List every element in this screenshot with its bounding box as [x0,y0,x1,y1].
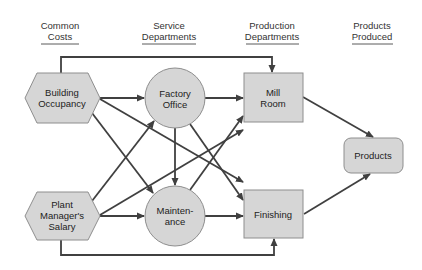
node-label: Occupancy [38,98,86,109]
node-label: Mainten- [157,205,194,216]
column-header-products-produced: Products Produced [352,20,393,44]
column-header-production-departments: Production Departments [245,20,300,44]
header-line: Products [353,20,391,31]
header-line: Costs [48,31,73,42]
node-label: ance [165,216,186,227]
edges [61,57,373,255]
node-factory-office: Factory Office [145,68,205,128]
node-mill-room: Mill Room [244,73,303,122]
header-line: Production [249,20,294,31]
node-label: Office [163,99,188,110]
node-label: Finishing [254,209,292,220]
node-label: Products [354,150,392,161]
edge-millroom-to-products [303,97,373,137]
column-header-common-costs: Common Costs [41,20,80,44]
node-maintenance: Mainten- ance [145,186,205,246]
node-label: Room [260,98,285,109]
node-finishing: Finishing [244,190,303,238]
edge-maintenance-to-millroom [190,116,243,190]
node-products: Products [344,138,403,173]
header-line: Departments [245,31,300,42]
edge-finishing-to-products [304,174,370,214]
node-plant-managers-salary: Plant Manager's Salary [25,192,100,240]
column-header-service-departments: Service Departments [142,20,197,44]
node-label: Manager's [40,210,84,221]
node-label: Mill [266,87,280,98]
header-line: Service [153,20,185,31]
node-label: Plant [51,199,73,210]
node-label: Factory [159,88,191,99]
node-label: Salary [49,221,76,232]
header-line: Common [41,20,80,31]
header-line: Departments [142,31,197,42]
node-label: Building [45,87,79,98]
cost-allocation-diagram: Common Costs Service Departments Product… [0,0,422,270]
header-line: Produced [352,31,393,42]
node-building-occupancy: Building Occupancy [25,73,100,123]
